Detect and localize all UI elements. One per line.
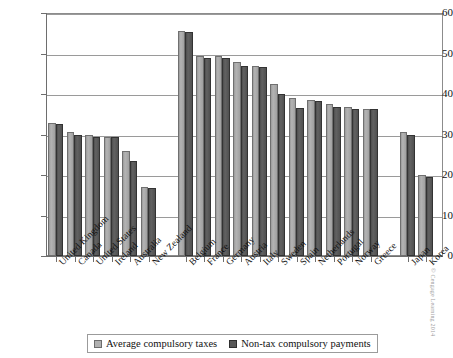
legend-swatch-icon bbox=[94, 340, 102, 348]
bar bbox=[48, 123, 55, 256]
legend-label: Non-tax compulsory payments bbox=[241, 338, 370, 349]
bar bbox=[296, 108, 303, 256]
y-tick-60 bbox=[41, 13, 46, 14]
bar bbox=[307, 100, 314, 256]
bar bbox=[333, 107, 340, 256]
bar-chart: 0102030405060 United KingdomCanadaUnited… bbox=[0, 0, 453, 358]
bar bbox=[363, 109, 370, 256]
legend-label: Average compulsory taxes bbox=[106, 338, 217, 349]
bar bbox=[178, 31, 185, 256]
bar bbox=[93, 137, 100, 256]
bar bbox=[278, 94, 285, 256]
x-axis-labels: United KingdomCanadaUnited StatesIreland… bbox=[0, 258, 453, 328]
bar bbox=[104, 137, 111, 256]
bar bbox=[215, 56, 222, 256]
legend-item: Non-tax compulsory payments bbox=[229, 338, 370, 349]
bar bbox=[326, 104, 333, 256]
legend-item: Average compulsory taxes bbox=[94, 338, 217, 349]
bar bbox=[315, 101, 322, 256]
bar bbox=[370, 109, 377, 256]
y-tick-10 bbox=[41, 216, 46, 217]
bar bbox=[241, 66, 248, 256]
bar bbox=[222, 58, 229, 256]
bar bbox=[400, 132, 407, 256]
bar bbox=[289, 98, 296, 256]
bar bbox=[426, 177, 433, 256]
y-tick-30 bbox=[41, 135, 46, 136]
y-tick-50 bbox=[41, 54, 46, 55]
bar bbox=[270, 84, 277, 256]
y-tick-20 bbox=[41, 175, 46, 176]
copyright-credit: © Cengage Learning 2014 bbox=[430, 268, 436, 336]
y-tick-40 bbox=[41, 94, 46, 95]
bar bbox=[56, 124, 63, 256]
bar bbox=[407, 135, 414, 257]
bar bbox=[259, 67, 266, 256]
bar bbox=[252, 66, 259, 256]
legend-swatch-icon bbox=[229, 340, 237, 348]
chart-legend: Average compulsory taxesNon-tax compulso… bbox=[87, 334, 378, 353]
bar bbox=[233, 62, 240, 256]
bar bbox=[204, 58, 211, 256]
bar bbox=[67, 132, 74, 256]
bar bbox=[196, 56, 203, 256]
